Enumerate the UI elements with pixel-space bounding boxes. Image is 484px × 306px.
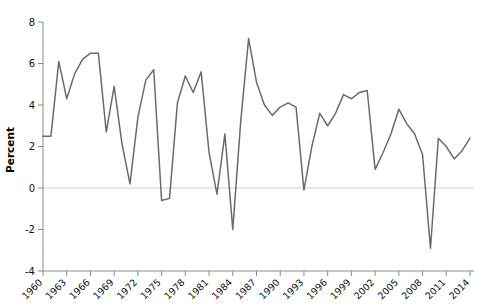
- y-tick-label: 6: [29, 58, 35, 69]
- x-tick-label: 1960: [20, 277, 45, 302]
- y-tick-label: -4: [25, 266, 35, 277]
- y-tick-label: 2: [29, 141, 35, 152]
- x-tick-label: 1978: [162, 277, 187, 302]
- x-tick-label: 2011: [423, 277, 448, 302]
- x-tick-label: 1987: [233, 277, 258, 302]
- x-tick-label: 1996: [304, 277, 329, 302]
- x-tick-label: 1999: [328, 277, 353, 302]
- x-tick-label: 2008: [399, 277, 424, 302]
- y-tick-label: -2: [25, 224, 35, 235]
- x-tick-label: 1981: [186, 277, 211, 302]
- x-tick-label: 2002: [352, 277, 377, 302]
- chart-container: -4-202468 196019631966196919721975197819…: [0, 0, 484, 306]
- x-tick-label: 2005: [375, 277, 400, 302]
- y-tick-label: 4: [29, 100, 35, 111]
- x-tick-label: 1993: [280, 277, 305, 302]
- x-tick-label: 2014: [447, 277, 472, 302]
- line-chart: -4-202468 196019631966196919721975197819…: [0, 0, 484, 306]
- x-tick-label: 1990: [257, 277, 282, 302]
- y-tick-label: 0: [29, 183, 35, 194]
- x-tick-label: 1972: [114, 277, 139, 302]
- x-tick-label: 1969: [91, 277, 116, 302]
- svg-text:Percent: Percent: [4, 127, 16, 173]
- y-axis-title: Percent: [4, 127, 16, 173]
- x-tick-label: 1963: [43, 277, 68, 302]
- x-tick-label: 1966: [67, 277, 92, 302]
- y-axis: -4-202468: [25, 17, 43, 277]
- x-tick-label: 1975: [138, 277, 163, 302]
- x-axis: 1960196319661969197219751978198119841987…: [20, 271, 474, 302]
- data-series: [43, 39, 470, 249]
- x-tick-label: 1984: [209, 277, 234, 302]
- y-tick-label: 8: [29, 17, 35, 28]
